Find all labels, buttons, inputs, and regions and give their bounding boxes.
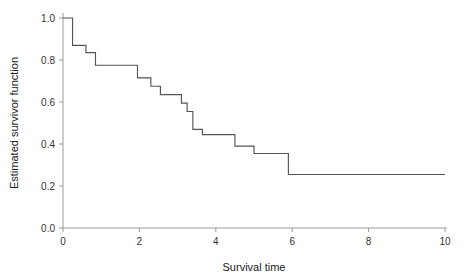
y-tick-label: 0.0 xyxy=(41,223,55,234)
y-tick-label: 0.2 xyxy=(41,181,55,192)
survival-plot-figure: 0.00.20.40.60.81.0 0246810 Survival time… xyxy=(0,0,470,279)
y-tick-label: 0.8 xyxy=(41,55,55,66)
chart-canvas: 0.00.20.40.60.81.0 0246810 Survival time… xyxy=(0,0,470,279)
x-tick-label: 6 xyxy=(289,236,295,247)
y-axis-title: Estimated survivor function xyxy=(8,57,20,189)
x-tick-label: 8 xyxy=(366,236,372,247)
x-tick-label: 4 xyxy=(213,236,219,247)
x-tick-label: 2 xyxy=(137,236,143,247)
x-tick-label: 0 xyxy=(60,236,66,247)
y-tick-label: 0.6 xyxy=(41,97,55,108)
x-axis-title: Survival time xyxy=(223,261,286,273)
y-tick-label: 1.0 xyxy=(41,13,55,24)
y-tick-label: 0.4 xyxy=(41,139,55,150)
x-tick-label: 10 xyxy=(439,236,451,247)
